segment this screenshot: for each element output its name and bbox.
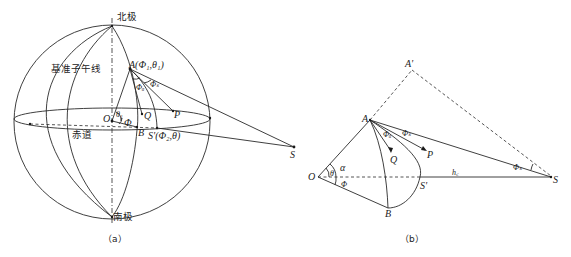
label-point-s: S <box>290 149 295 160</box>
label-equator: 赤道 <box>72 129 92 140</box>
label-point-b: B <box>385 208 391 219</box>
angle-theta-arc <box>326 168 329 177</box>
diagram-canvas: 北极 南极 基准子午线 赤道 A(Φ₁,θ₁) O Q P B S'(Φ₂,θ)… <box>0 0 571 257</box>
point-s-prime <box>156 127 158 129</box>
label-angle-alpha: α <box>340 162 346 173</box>
line-o-b <box>318 177 388 208</box>
label-north-pole: 北极 <box>117 11 137 22</box>
point-equator-right <box>209 117 211 119</box>
point-s <box>293 146 296 149</box>
label-height: h꜀ <box>452 168 459 177</box>
angle-phi-a-arc <box>133 78 140 79</box>
label-point-s-prime: S'(Φ₂,θ) <box>148 130 181 142</box>
label-point-s: S <box>553 174 558 185</box>
dash-a-a-prime <box>370 70 412 120</box>
figure-a: 北极 南极 基准子午线 赤道 A(Φ₁,θ₁) O Q P B S'(Φ₂,θ)… <box>14 11 295 244</box>
label-south-pole: 南极 <box>113 211 133 222</box>
label-angle-phi-a: Φₐ <box>136 83 145 92</box>
point-a <box>369 119 371 121</box>
angle-phi-s2-arc <box>531 164 533 170</box>
label-point-s-prime: S' <box>420 180 428 191</box>
label-prime-meridian: 基准子午线 <box>51 63 101 74</box>
label-angle-phi-s: Φₛ <box>150 80 160 89</box>
label-angle-phi-a: Φₐ <box>383 130 392 139</box>
label-point-p: P <box>173 109 180 120</box>
arrowhead-q <box>388 147 393 153</box>
line-a-s <box>370 120 551 177</box>
label-point-p: P <box>426 149 433 160</box>
point-q <box>141 113 143 115</box>
label-point-q: Q <box>144 110 152 121</box>
point-s <box>550 176 552 178</box>
label-point-q: Q <box>390 154 398 165</box>
label-angle-phi-s: Φₛ <box>402 129 412 138</box>
caption-b: （b） <box>400 234 424 244</box>
caption-a: （a） <box>103 234 127 244</box>
label-angle-theta: θ <box>330 169 334 178</box>
figure-b: A' A O Q P B S' S α θ Φ Φₐ Φₛ Φₛ h꜀ （b） <box>308 58 558 244</box>
label-angle-theta1: θ₁ <box>116 110 123 119</box>
point-north <box>111 25 113 27</box>
dash-a-prime-s <box>412 70 551 176</box>
label-point-a: A <box>361 113 369 124</box>
point-equator-left <box>29 123 31 125</box>
label-point-a-prime: A' <box>404 58 414 69</box>
label-point-o: O <box>103 113 110 124</box>
label-angle-phi: Φ <box>124 117 132 128</box>
label-angle-phi-s2: Φₛ <box>513 163 523 172</box>
label-point-o: O <box>308 171 315 182</box>
angle-phi-arc <box>335 177 336 185</box>
label-point-b: B <box>138 127 144 138</box>
label-point-a: A(Φ₁,θ₁) <box>128 59 164 71</box>
label-angle-phi: Φ <box>341 180 347 189</box>
point-o <box>111 120 114 123</box>
